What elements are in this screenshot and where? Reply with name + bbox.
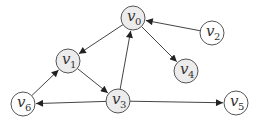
node-v0: v0 [121, 6, 145, 30]
edge-v6-to-v1 [32, 70, 59, 96]
node-subscript: 4 [188, 69, 194, 80]
node-subscript: 6 [25, 102, 31, 113]
graph-canvas: v0v1v2v3v4v5v6 [0, 0, 278, 122]
node-v1: v1 [56, 49, 80, 73]
node-v4: v4 [174, 59, 198, 83]
nodes-group: v0v1v2v3v4v5v6 [11, 6, 248, 116]
node-subscript: 2 [214, 31, 220, 42]
node-subscript: 1 [70, 59, 76, 70]
node-subscript: 3 [120, 99, 126, 110]
node-subscript: 5 [238, 101, 244, 112]
node-v5: v5 [224, 91, 248, 115]
edge-v1-to-v3 [77, 68, 107, 92]
node-v6: v6 [11, 92, 35, 116]
edge-v0-to-v4 [141, 26, 176, 61]
node-v2: v2 [200, 21, 224, 45]
edge-v3-to-v0 [120, 31, 131, 89]
edge-v3-to-v5 [130, 101, 223, 103]
node-v3: v3 [106, 89, 130, 113]
edge-v2-to-v0 [146, 20, 200, 30]
edge-v0-to-v1 [79, 25, 123, 54]
edge-v3-to-v6 [36, 101, 106, 103]
node-subscript: 0 [135, 16, 141, 27]
